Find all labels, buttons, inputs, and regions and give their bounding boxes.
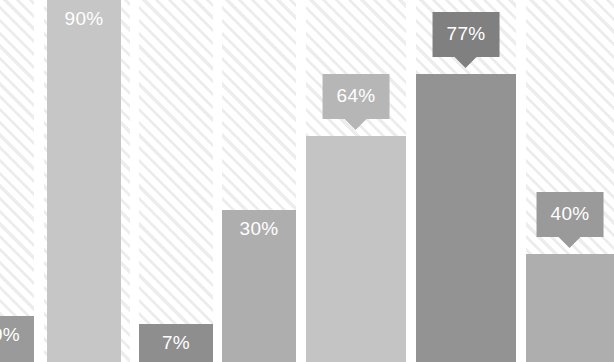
bar-group[interactable]: 90% — [47, 0, 121, 362]
callout-pointer — [345, 119, 367, 130]
chart-column-track — [0, 0, 34, 362]
bar-group[interactable]: 30% — [222, 210, 296, 362]
bar-group[interactable]: 9% — [0, 316, 34, 362]
bar-group[interactable] — [526, 254, 614, 362]
bar[interactable] — [47, 0, 121, 362]
bar[interactable] — [0, 316, 34, 362]
bar[interactable] — [306, 136, 406, 362]
bar-group[interactable] — [416, 74, 516, 362]
callout-pointer — [559, 237, 581, 248]
bar-group[interactable]: 7% — [139, 324, 213, 362]
bar[interactable] — [222, 210, 296, 362]
chart-column-track — [139, 0, 213, 362]
bar-chart: 9%90%7%30% 64%77%40% — [0, 0, 614, 362]
bar-value-callout: 77% — [433, 12, 500, 57]
callout-pointer — [455, 57, 477, 68]
bar-value-callout: 40% — [537, 192, 604, 237]
bar[interactable] — [526, 254, 614, 362]
bar-group[interactable] — [306, 136, 406, 362]
bar[interactable] — [416, 74, 516, 362]
bar-value-callout: 64% — [323, 74, 390, 119]
bar[interactable] — [139, 324, 213, 362]
